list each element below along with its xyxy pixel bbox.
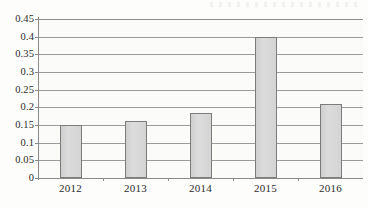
y-axis-tick-label: 0.4 — [0, 31, 34, 42]
scan-artifact — [210, 2, 360, 7]
y-axis-tick-mark — [35, 160, 38, 161]
gridline — [38, 72, 363, 73]
y-axis-line — [38, 17, 39, 180]
gridline — [38, 19, 363, 20]
x-axis-tick-label: 2016 — [298, 182, 364, 194]
y-axis-tick-mark — [35, 54, 38, 55]
y-axis-tick-label: 0.25 — [0, 84, 34, 95]
y-axis-tick-mark — [35, 72, 38, 73]
y-axis-tick-mark — [35, 178, 38, 179]
x-axis-tick-label: 2015 — [233, 182, 299, 194]
bar-chart — [38, 19, 363, 178]
y-axis-tick-label: 0.35 — [0, 49, 34, 60]
x-axis-tick-mark — [298, 178, 299, 181]
x-axis-tick-mark — [233, 178, 234, 181]
y-axis-tick-mark — [35, 37, 38, 38]
bar — [255, 37, 277, 178]
bar — [60, 125, 82, 178]
gridline — [38, 54, 363, 55]
x-axis-tick-label: 2014 — [168, 182, 234, 194]
x-axis-tick-label: 2013 — [103, 182, 169, 194]
y-axis-tick-mark — [35, 143, 38, 144]
x-axis-tick-label: 2012 — [38, 182, 104, 194]
chart-screenshot: 0.450.40.350.30.250.20.150.10.050 201220… — [0, 0, 368, 208]
y-axis-tick-label: 0.1 — [0, 137, 34, 148]
x-axis-tick-mark — [103, 178, 104, 181]
y-axis-tick-label: 0.3 — [0, 67, 34, 78]
y-axis-tick-label: 0.15 — [0, 120, 34, 131]
bar — [320, 104, 342, 178]
bar — [125, 121, 147, 178]
y-axis-tick-label: 0.05 — [0, 155, 34, 166]
y-axis-tick-label: 0 — [0, 173, 34, 184]
gridline — [38, 90, 363, 91]
y-axis-tick-mark — [35, 125, 38, 126]
x-axis-tick-mark — [168, 178, 169, 181]
bar — [190, 113, 212, 178]
gridline — [38, 37, 363, 38]
gridline — [38, 107, 363, 108]
y-axis-tick-label: 0.45 — [0, 14, 34, 25]
y-axis-tick-mark — [35, 90, 38, 91]
y-axis-tick-mark — [35, 19, 38, 20]
y-axis-tick-mark — [35, 107, 38, 108]
x-axis-line — [38, 178, 363, 179]
y-axis-tick-label: 0.2 — [0, 102, 34, 113]
